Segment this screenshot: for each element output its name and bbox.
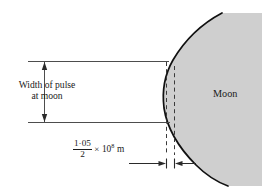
power-exponent: 8 <box>111 142 114 149</box>
pulse-width-label: Width of pulse at moon <box>6 80 88 101</box>
moon-shape <box>163 13 262 186</box>
distance-arrow-right-icon <box>159 161 167 166</box>
pulse-width-arrow-up-icon <box>42 62 47 70</box>
power-of-ten: 108 <box>102 143 114 155</box>
distance-fraction: 1·05 2 <box>73 139 92 159</box>
fraction-numerator: 1·05 <box>73 139 92 149</box>
multiplication-sign: × <box>94 144 99 154</box>
moon-label: Moon <box>213 88 237 99</box>
fraction-denominator: 2 <box>79 150 86 160</box>
power-base: 10 <box>102 145 111 155</box>
pulse-width-arrow-down-icon <box>42 114 47 122</box>
distance-annotation: 1·05 2 × 108 m <box>73 139 124 159</box>
distance-unit: m <box>117 144 124 155</box>
pulse-width-label-line2: at moon <box>6 91 88 102</box>
